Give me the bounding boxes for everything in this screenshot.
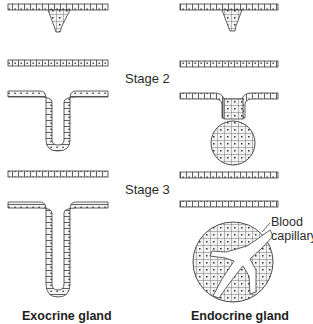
- blood-capillary-label-line1: Blood: [271, 216, 303, 229]
- exocrine-stage2-tube: [8, 91, 108, 151]
- exocrine-stage3-tube: [8, 202, 108, 297]
- endocrine-stage1: [180, 4, 278, 31]
- stage-2-label: Stage 2: [125, 71, 170, 86]
- exocrine-stage2-epithelium: [8, 60, 108, 66]
- endocrine-stage3-epithelium: [180, 172, 278, 207]
- endocrine-stage2-bud: [180, 93, 278, 165]
- blood-capillary-label-line2: capillary: [271, 230, 313, 243]
- exocrine-gland-title: Exocrine gland: [22, 309, 112, 323]
- exocrine-stage1: [8, 4, 108, 32]
- gland-development-diagram: [0, 0, 313, 324]
- endocrine-stage3-gland: [193, 222, 273, 302]
- endocrine-stage2-epithelium: [180, 61, 278, 67]
- stage-3-label: Stage 3: [125, 182, 170, 197]
- endocrine-gland-title: Endocrine gland: [191, 309, 289, 323]
- exocrine-stage3-epithelium: [8, 171, 108, 177]
